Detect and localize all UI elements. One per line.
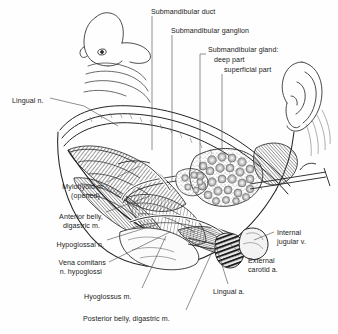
label-mylohyoid-opened: (opened) bbox=[5, 192, 100, 201]
label-hypoglossal-n: Hypoglossal n. bbox=[5, 241, 104, 250]
eyebrow-lip-lines bbox=[84, 63, 150, 102]
label-external-carotid-a-line2: carotid a. bbox=[248, 266, 278, 275]
label-digastric-m: digastric m. bbox=[5, 222, 100, 231]
label-submandibular-gland: Submandibular gland: bbox=[208, 46, 278, 55]
submandibular-gland-deep bbox=[176, 169, 208, 196]
neck-shading bbox=[306, 110, 330, 156]
internal-jugular-vein bbox=[239, 228, 268, 260]
label-internal-jugular-v-line2: jugular v. bbox=[277, 238, 306, 247]
illustration-canvas bbox=[0, 0, 338, 334]
label-lingual-n: Lingual n. bbox=[12, 97, 43, 106]
label-submandibular-duct: Submandibular duct bbox=[151, 8, 215, 17]
eye bbox=[97, 48, 106, 56]
label-anterior-belly: Anterior belly, bbox=[5, 213, 103, 222]
label-lingual-a: Lingual a. bbox=[213, 288, 244, 297]
label-mylohyoid-m: Mylohyoid m. bbox=[5, 183, 105, 192]
label-n-hypoglossi: n. hypoglossi bbox=[5, 268, 102, 277]
anatomical-figure: Submandibular duct Submandibular ganglio… bbox=[0, 0, 338, 334]
label-submandibular-ganglion: Submandibular ganglion bbox=[171, 27, 249, 36]
label-superficial-part: superficial part bbox=[224, 66, 271, 75]
head-profile bbox=[80, 13, 150, 66]
retracted-tissue-flap bbox=[254, 143, 298, 185]
label-hyoglossus-m: Hyoglossus m. bbox=[84, 293, 131, 302]
label-deep-part: deep part bbox=[214, 56, 245, 65]
auricle bbox=[282, 62, 322, 131]
label-posterior-belly-digastric: Posterior belly, digastric m. bbox=[83, 315, 170, 324]
label-external-carotid-a: External bbox=[248, 257, 275, 266]
label-internal-jugular-v: Internal bbox=[277, 229, 301, 238]
label-vena-comitans: Vena comitans bbox=[5, 259, 106, 268]
